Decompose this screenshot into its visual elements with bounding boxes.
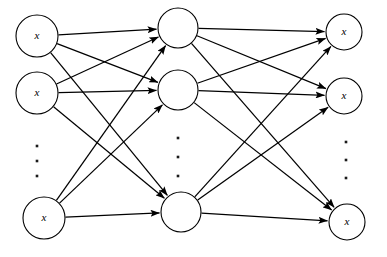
connection-arrow <box>60 105 163 203</box>
ellipsis-dot-output-1 <box>345 159 348 162</box>
node-label-o1: x <box>341 25 347 37</box>
network-node-o3: x <box>329 204 365 240</box>
network-node-h2 <box>158 70 198 110</box>
ellipsis-dot-hidden-0 <box>177 137 180 140</box>
network-canvas: xxxxxx <box>0 0 387 257</box>
connection-arrow <box>191 43 334 207</box>
neural-network-diagram: xxxxxx <box>0 0 387 257</box>
connection-arrow <box>197 38 325 83</box>
connection-arrow <box>65 213 159 217</box>
node-label-i3: x <box>41 211 47 223</box>
ellipsis-markers <box>36 137 348 180</box>
network-node-i2: x <box>16 72 58 114</box>
ellipsis-dot-input-2 <box>36 175 39 178</box>
connection-arrow <box>195 46 331 196</box>
connection-arrow <box>51 53 168 196</box>
node-circle-h3 <box>161 192 201 232</box>
node-label-i1: x <box>34 29 40 41</box>
connection-arrow <box>201 213 327 221</box>
node-label-i2: x <box>34 86 40 98</box>
ellipsis-dot-hidden-2 <box>177 175 180 178</box>
connection-arrow <box>54 107 165 199</box>
connection-arrow <box>198 91 324 96</box>
connection-arrow <box>58 29 156 35</box>
connection-arrow <box>198 28 324 31</box>
network-node-h1 <box>158 8 198 48</box>
network-node-o2: x <box>326 78 362 114</box>
node-label-o3: x <box>344 215 350 227</box>
node-circle-h2 <box>158 70 198 110</box>
node-label-o2: x <box>341 89 347 101</box>
network-node-i1: x <box>16 15 58 57</box>
network-node-h3 <box>161 192 201 232</box>
node-circle-h1 <box>158 8 198 48</box>
connection-arrow <box>58 90 156 92</box>
network-node-o1: x <box>326 14 362 50</box>
network-node-i3: x <box>23 197 65 239</box>
ellipsis-dot-input-1 <box>36 160 39 163</box>
ellipsis-dot-hidden-1 <box>177 156 180 159</box>
ellipsis-dot-output-0 <box>345 141 348 144</box>
connection-arrow <box>197 36 326 89</box>
ellipsis-dot-output-2 <box>345 177 348 180</box>
ellipsis-dot-input-0 <box>36 145 39 148</box>
connection-edges <box>51 28 335 220</box>
